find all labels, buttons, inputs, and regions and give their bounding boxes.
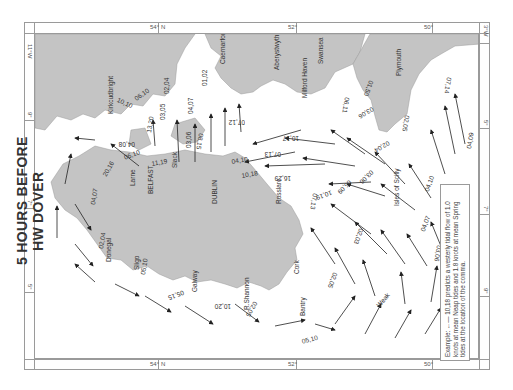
legend-text: Example: ←— 10,18 predicts a westerly ti… (444, 189, 467, 357)
rate-label: 04,07 (187, 98, 194, 114)
title-line-1: 5 HOURS BEFORE (14, 136, 30, 265)
top-label-n: N (161, 24, 165, 30)
place-dublin: DUBLIN (211, 180, 218, 204)
title-line-2: HW DOVER (30, 136, 46, 265)
place-galway: Galway (191, 270, 198, 292)
place-rosslare: Rosslare (275, 178, 282, 204)
legend-box: Example: ←— 10,18 predicts a westerly ti… (440, 184, 470, 361)
top-label-50: 50° (424, 24, 433, 30)
legend-example-rate: 10,18 (444, 299, 451, 315)
land-masses (35, 34, 479, 290)
place-swansea: Swansea (317, 37, 324, 64)
rate-label: 04,08 (119, 141, 135, 148)
right-tick-3 (479, 296, 490, 297)
place-kirkcudbright: Kirkcudbright (107, 76, 114, 114)
bottom-label-50: 50° (424, 361, 433, 367)
map-graphic (35, 34, 479, 359)
rate-label: 07,13 (265, 151, 281, 158)
place-belfast: BELFAST (147, 165, 154, 194)
rate-label: 16,29 (275, 175, 291, 182)
place-bantry: Bantry (299, 297, 306, 316)
bottom-label-n: N (161, 361, 165, 367)
place-caernarfon: Caernarfon (219, 33, 226, 64)
place-aberystwyth: Aberystwyth (273, 35, 280, 70)
right-label-9: 9° (483, 288, 489, 294)
legend-example-label: Example: (444, 331, 451, 357)
map-title: 5 HOURS BEFORE HW DOVER (14, 136, 46, 265)
right-label-5: 5° (483, 120, 489, 126)
rate-label: 03,05 (159, 104, 166, 120)
place-donegal: Donegal (105, 238, 112, 262)
rate-label: 01,02 (201, 70, 208, 86)
bottom-label-52: 52° (288, 361, 297, 367)
place-cork: Cork (293, 260, 300, 274)
right-tick-0 (479, 43, 490, 44)
rate-label: 10,20 (215, 303, 231, 310)
right-tick-2 (479, 214, 490, 215)
left-tick-1 (24, 120, 34, 121)
left-label-9: 9° (27, 112, 33, 118)
legend-arrow-icon: ←— (444, 316, 451, 329)
top-label-52: 52° (288, 24, 297, 30)
rate-label: 02,04 (163, 78, 170, 94)
right-scale-line (479, 22, 480, 370)
label-slack: Slack (171, 152, 178, 168)
rate-label: 10,17 (283, 135, 299, 142)
right-tick-1 (479, 128, 490, 129)
bottom-label-54: 54° (150, 361, 159, 367)
rate-label: 03,06 (185, 132, 192, 148)
left-tick-3 (24, 292, 34, 293)
place-larne: Larne (129, 169, 136, 186)
right-label-3w: 3°W (483, 25, 489, 36)
bottom-scale-line (24, 359, 490, 360)
left-label-5: 5° (27, 284, 33, 290)
place-plymouth: Plymouth (395, 49, 402, 76)
right-label-7: 7° (483, 206, 489, 212)
top-label-54: 54° (150, 24, 159, 30)
place-isles-of-scilly: Isles of Scilly (393, 168, 400, 206)
tidal-map: Kirkcudbright Caernarfon Aberystwyth Swa… (34, 33, 479, 359)
rate-label: 07,12 (229, 119, 245, 126)
place-milford-haven: Milford Haven (301, 58, 308, 98)
left-label-11w: 11°W (27, 44, 33, 58)
